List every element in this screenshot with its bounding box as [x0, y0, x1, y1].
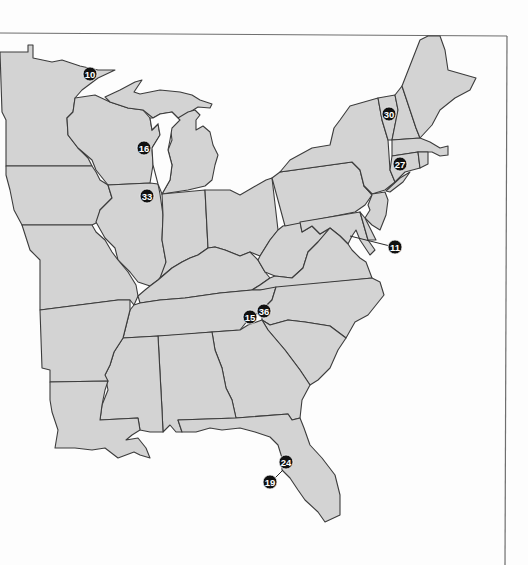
state-rhode-island[interactable]: [418, 152, 428, 168]
location-marker[interactable]: 16: [137, 141, 151, 155]
marker-label: 27: [395, 159, 406, 170]
marker-label: 10: [85, 69, 96, 80]
location-marker[interactable]: 24: [279, 455, 293, 469]
states-layer: [0, 36, 476, 522]
marker-label: 24: [281, 457, 292, 468]
location-marker[interactable]: 15: [243, 310, 257, 324]
marker-label: 36: [259, 306, 270, 317]
marker-label: 30: [384, 109, 395, 120]
marker-label: 19: [265, 477, 276, 488]
marker-label: 15: [245, 312, 256, 323]
location-marker[interactable]: 19: [263, 475, 277, 489]
us-east-map: 10 16 33 30 27 11: [0, 0, 528, 565]
location-marker[interactable]: 11: [388, 240, 402, 254]
location-marker[interactable]: 36: [257, 304, 271, 318]
location-marker[interactable]: 27: [393, 157, 407, 171]
state-iowa[interactable]: [6, 166, 112, 225]
marker-label: 11: [390, 242, 401, 253]
map-frame-right: [505, 36, 507, 565]
marker-label: 33: [142, 191, 153, 202]
location-marker[interactable]: 30: [382, 107, 396, 121]
location-marker[interactable]: 10: [83, 67, 97, 81]
location-marker[interactable]: 33: [140, 189, 154, 203]
marker-label: 16: [139, 143, 150, 154]
map-container: 10 16 33 30 27 11: [0, 0, 528, 565]
state-florida[interactable]: [178, 414, 340, 522]
